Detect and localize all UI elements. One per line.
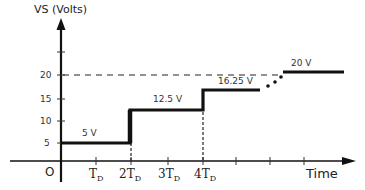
x-tick-td: TD bbox=[89, 167, 103, 183]
y-axis-label: VS (Volts) bbox=[34, 3, 87, 16]
continuation-dot bbox=[273, 80, 277, 84]
y-tick-20: 20 bbox=[40, 70, 52, 80]
y-tick-10: 10 bbox=[40, 116, 52, 126]
origin-label: O bbox=[45, 165, 54, 179]
x-tick-3td: 3TD bbox=[158, 167, 180, 183]
annotation-20v: 20 V bbox=[291, 58, 312, 68]
annotation-12-5v: 12.5 V bbox=[153, 94, 183, 104]
x-axis-arrow-icon bbox=[342, 157, 356, 165]
continuation-dot bbox=[279, 75, 283, 79]
annotation-16-25v: 16.25 V bbox=[218, 76, 254, 86]
continuation-dot bbox=[266, 84, 270, 88]
step-voltage-chart: VS (Volts) Time O 20 15 10 5 TD 2TD 3TD … bbox=[0, 0, 365, 190]
y-axis-arrow-icon bbox=[57, 18, 66, 30]
y-tick-15: 15 bbox=[40, 94, 51, 104]
y-tick-5: 5 bbox=[44, 138, 50, 148]
annotation-5v: 5 V bbox=[82, 128, 98, 138]
x-tick-4td: 4TD bbox=[194, 167, 216, 183]
x-tick-2td: 2TD bbox=[119, 167, 141, 183]
x-axis-label: Time bbox=[305, 166, 338, 181]
